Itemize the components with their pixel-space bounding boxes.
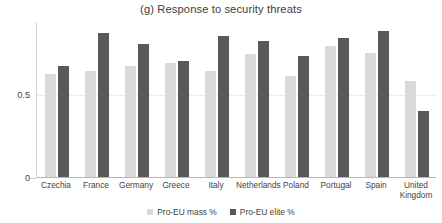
x-axis-label: Netherlands xyxy=(236,181,276,191)
x-axis-label: Poland xyxy=(276,181,316,191)
bar-group xyxy=(77,22,117,177)
bar-group xyxy=(357,22,397,177)
legend-swatch-elite xyxy=(230,209,236,215)
bar-mass xyxy=(285,76,297,177)
x-axis-label: Czechia xyxy=(36,181,76,191)
bar-group xyxy=(117,22,157,177)
bar-elite xyxy=(378,31,390,177)
bar-elite xyxy=(98,33,110,177)
legend-entry[interactable]: Pro-EU elite % xyxy=(230,207,295,217)
y-axis: 0.5 0 xyxy=(0,22,36,178)
x-axis-label: Germany xyxy=(116,181,156,191)
chart-figure: (g) Response to security threats 0.5 0 C… xyxy=(0,0,442,223)
bar-elite xyxy=(178,61,190,177)
bar-elite xyxy=(58,66,70,177)
bar-group xyxy=(197,22,237,177)
bar-elite xyxy=(218,36,230,177)
bar-group xyxy=(37,22,77,177)
bar-group xyxy=(237,22,277,177)
bar-mass xyxy=(45,74,57,177)
bar-mass xyxy=(165,63,177,178)
bar-mass xyxy=(365,53,377,177)
bar-mass xyxy=(325,46,337,177)
bar-group xyxy=(277,22,317,177)
legend-label: Pro-EU elite % xyxy=(240,207,295,217)
bar-mass xyxy=(405,81,417,177)
bar-series-container xyxy=(37,22,436,177)
legend-entry[interactable]: Pro-EU mass % xyxy=(147,207,217,217)
bar-mass xyxy=(245,54,257,177)
bar-group xyxy=(397,22,437,177)
plot-area xyxy=(36,22,436,178)
x-axis-category-labels: CzechiaFranceGermanyGreeceItalyNetherlan… xyxy=(36,181,436,207)
x-axis-label: Greece xyxy=(156,181,196,191)
x-axis-label: Spain xyxy=(356,181,396,191)
bar-elite xyxy=(138,44,150,177)
bar-elite xyxy=(418,111,430,177)
bar-group xyxy=(317,22,357,177)
bar-mass xyxy=(85,71,97,177)
bar-elite xyxy=(338,38,350,177)
legend-label: Pro-EU mass % xyxy=(157,207,217,217)
chart-title: (g) Response to security threats xyxy=(0,3,442,15)
y-axis-tick-label-0-5: 0.5 xyxy=(17,90,30,100)
bar-mass xyxy=(125,66,137,177)
x-axis-label: France xyxy=(76,181,116,191)
bar-group xyxy=(157,22,197,177)
x-axis-label: Italy xyxy=(196,181,236,191)
y-axis-tick-mark-0 xyxy=(30,178,36,179)
bar-mass xyxy=(205,71,217,177)
bar-elite xyxy=(258,41,270,177)
chart-legend: Pro-EU mass %Pro-EU elite % xyxy=(0,207,442,217)
x-axis-label: Portugal xyxy=(316,181,356,191)
bar-elite xyxy=(298,56,310,177)
x-axis-label: United Kingdom xyxy=(396,181,436,200)
legend-swatch-mass xyxy=(147,209,153,215)
